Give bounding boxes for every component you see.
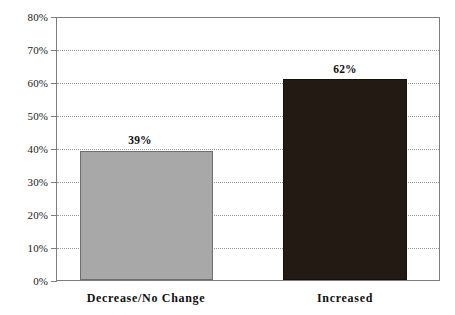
gridline-70 xyxy=(57,50,439,51)
y-axis-label-10: 10% xyxy=(28,243,48,254)
plot-area xyxy=(56,17,440,281)
value-label-decrease-no-change: 39% xyxy=(106,134,174,146)
bar-decrease-no-change[interactable] xyxy=(80,151,213,280)
y-axis-label-80: 80% xyxy=(28,12,48,23)
bar-chart: 80% 70% 60% 50% 40% 30% 20% 10% 0% 39% 6… xyxy=(0,0,455,315)
y-axis-label-40: 40% xyxy=(28,144,48,155)
y-axis-label-30: 30% xyxy=(28,177,48,188)
category-label-increased: Increased xyxy=(275,291,415,305)
value-label-increased: 62% xyxy=(311,63,379,75)
y-axis-label-20: 20% xyxy=(28,210,48,221)
y-axis-tick-0 xyxy=(51,281,57,282)
y-axis-label-0: 0% xyxy=(33,276,48,287)
bar-increased[interactable] xyxy=(283,79,407,280)
category-label-decrease-no-change: Decrease/No Change xyxy=(66,291,226,305)
y-axis-label-50: 50% xyxy=(28,111,48,122)
y-axis-label-70: 70% xyxy=(28,45,48,56)
y-axis-label-60: 60% xyxy=(28,78,48,89)
